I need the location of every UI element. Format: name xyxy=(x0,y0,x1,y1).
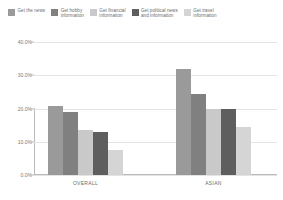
bar[interactable] xyxy=(176,69,191,175)
legend-item[interactable]: Get political news and information xyxy=(132,8,178,19)
y-axis-tick-mark xyxy=(31,75,34,76)
legend-item[interactable]: Get the news xyxy=(8,8,45,16)
x-axis-category-label: ASIAN xyxy=(171,180,256,186)
legend-swatch-icon xyxy=(132,9,139,16)
bar[interactable] xyxy=(48,106,63,175)
legend-item-label: Get political news and information xyxy=(141,8,178,19)
y-axis-tick-label: 30.0% xyxy=(2,72,32,78)
legend-item[interactable]: Get hobby information xyxy=(51,8,84,19)
bar[interactable] xyxy=(63,112,78,175)
y-axis-tick-mark xyxy=(31,108,34,109)
legend-item-label: Get the news xyxy=(18,8,46,13)
bar[interactable] xyxy=(236,127,251,175)
x-axis-category-label: OVERALL xyxy=(43,180,128,186)
gridline xyxy=(34,175,277,176)
legend-swatch-icon xyxy=(8,9,15,16)
y-axis-tick-mark xyxy=(31,42,34,43)
y-axis-tick-label: 40.0% xyxy=(2,39,32,45)
legend-swatch-icon xyxy=(184,9,191,16)
bar[interactable] xyxy=(206,109,221,176)
bar[interactable] xyxy=(221,109,236,176)
legend-item-label: Get financial information xyxy=(99,8,125,19)
y-axis-tick-label: 20.0% xyxy=(2,106,32,112)
legend-item[interactable]: Get financial information xyxy=(90,8,126,19)
bar[interactable] xyxy=(191,94,206,175)
y-axis-tick-label: 10.0% xyxy=(2,139,32,145)
plot-area xyxy=(34,42,277,175)
bar-group xyxy=(176,42,251,175)
y-axis-tick-mark xyxy=(31,175,34,176)
legend-swatch-icon xyxy=(90,9,97,16)
bar-chart: Get the newsGet hobby informationGet fin… xyxy=(0,0,283,200)
legend-item-label: Get travel information xyxy=(193,8,216,19)
y-axis-tick-mark xyxy=(31,141,34,142)
legend-swatch-icon xyxy=(51,9,58,16)
bar[interactable] xyxy=(78,130,93,175)
bar[interactable] xyxy=(108,150,123,175)
bar[interactable] xyxy=(93,132,108,175)
y-axis-tick-label: 0.0% xyxy=(2,172,32,178)
legend-item[interactable]: Get travel information xyxy=(184,8,217,19)
bar-group xyxy=(48,42,123,175)
legend-item-label: Get hobby information xyxy=(61,8,84,19)
chart-legend: Get the newsGet hobby informationGet fin… xyxy=(0,0,283,30)
